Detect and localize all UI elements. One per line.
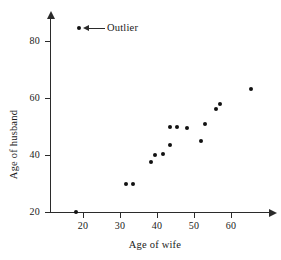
y-tick-label-40: 40 [18, 150, 40, 160]
data-point [185, 126, 189, 130]
y-axis-arrowhead-icon [47, 11, 55, 19]
data-point [153, 153, 157, 157]
y-tick-40 [45, 155, 51, 156]
x-tick-20 [83, 212, 84, 218]
scatter-plot: 20406080 2030405060 Outlier Age of wife … [0, 0, 281, 260]
x-tick-40 [157, 212, 158, 218]
x-tick-label-30: 30 [108, 221, 132, 231]
y-tick-20 [45, 212, 51, 213]
y-tick-60 [45, 98, 51, 99]
data-point [149, 160, 153, 164]
x-tick-30 [120, 212, 121, 218]
data-point [168, 125, 172, 129]
y-tick-80 [45, 41, 51, 42]
outlier-annotation-label: Outlier [107, 22, 138, 33]
data-point [218, 102, 222, 106]
x-tick-label-20: 20 [71, 221, 95, 231]
data-point [175, 125, 179, 129]
x-axis-label: Age of wife [105, 239, 205, 250]
y-tick-label-60: 60 [18, 93, 40, 103]
x-tick-60 [231, 212, 232, 218]
data-point [249, 87, 253, 91]
outlier-marker [77, 26, 81, 30]
data-point [161, 152, 165, 156]
y-axis-line [50, 18, 51, 212]
x-tick-label-60: 60 [219, 221, 243, 231]
data-point [124, 182, 128, 186]
x-tick-label-40: 40 [145, 221, 169, 231]
data-point [214, 107, 218, 111]
outlier-leader-line [86, 28, 105, 29]
y-tick-label-80: 80 [18, 36, 40, 46]
data-point [131, 182, 135, 186]
x-tick-label-50: 50 [182, 221, 206, 231]
y-tick-label-20: 20 [18, 207, 40, 217]
data-point [199, 139, 203, 143]
data-point [203, 122, 207, 126]
data-point [168, 143, 172, 147]
y-axis-label: Age of husband [8, 95, 19, 195]
x-tick-50 [194, 212, 195, 218]
x-axis-arrowhead-icon [269, 209, 277, 217]
data-point [74, 210, 78, 214]
